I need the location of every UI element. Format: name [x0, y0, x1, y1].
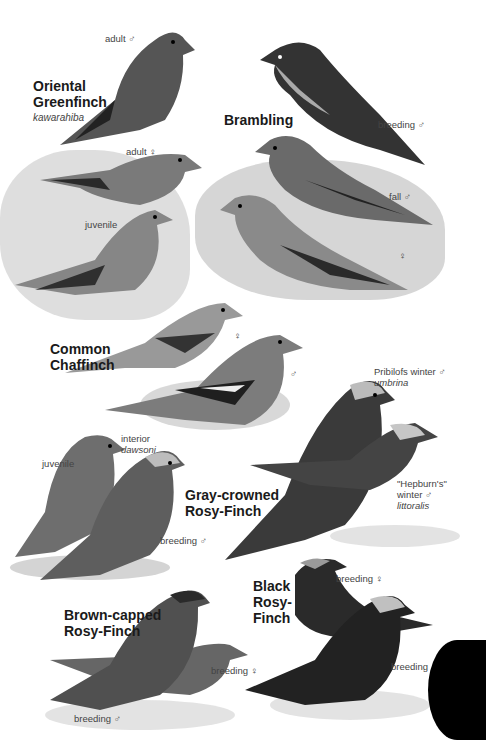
- label-female: ♀: [234, 330, 241, 341]
- male-symbol-icon: ♂: [114, 713, 121, 724]
- species-name-brown-capped-rosy-finch: Brown-capped Rosy-Finch: [64, 607, 161, 639]
- label-male: ♂: [290, 368, 297, 379]
- species-name-line: Rosy-Finch: [64, 623, 140, 639]
- species-name-line: Common: [50, 341, 111, 357]
- species-name-common-chaffinch: Common Chaffinch: [50, 341, 115, 373]
- section-thumb-tab: [428, 640, 486, 740]
- label-breeding-male: breeding ♂: [160, 535, 207, 546]
- species-name-gray-crowned-rosy-finch: Gray-crowned Rosy-Finch: [185, 487, 279, 519]
- species-name-line: Finch: [253, 610, 290, 626]
- subspecies-name: umbrina: [374, 377, 408, 388]
- label-adult-female: adult ♀: [126, 146, 156, 157]
- label-pribilofs-winter-male: Pribilofs winter ♂ umbrina: [374, 366, 446, 388]
- label-breeding-male: breeding ♂: [378, 119, 425, 130]
- label-female: ♀: [399, 250, 406, 261]
- label-juvenile: juvenile: [42, 458, 74, 469]
- male-symbol-icon: ♂: [200, 535, 207, 546]
- male-symbol-icon: ♂: [290, 368, 297, 379]
- male-symbol-icon: ♂: [425, 489, 432, 500]
- female-symbol-icon: ♀: [234, 330, 241, 341]
- species-name-line: Brown-capped: [64, 607, 161, 623]
- label-breeding-male: breeding ♂: [74, 713, 121, 724]
- label-juvenile: juvenile: [85, 219, 117, 230]
- bird-brown-capped-breeding-male: [50, 585, 210, 715]
- female-symbol-icon: ♀: [399, 250, 406, 261]
- local-name: kawarahiba: [33, 110, 107, 126]
- label-breeding-female: breeding ♀: [211, 665, 258, 676]
- female-symbol-icon: ♀: [251, 665, 258, 676]
- female-symbol-icon: ♀: [149, 146, 156, 157]
- species-name-line: Greenfinch: [33, 94, 107, 110]
- species-name-black-rosy-finch: Black Rosy- Finch: [253, 578, 292, 626]
- subspecies-name: littoralis: [397, 500, 429, 511]
- species-name-line: Brambling: [224, 112, 293, 128]
- female-symbol-icon: ♀: [376, 573, 383, 584]
- species-name-line: Rosy-Finch: [185, 503, 261, 519]
- male-symbol-icon: ♂: [438, 366, 445, 377]
- label-hepburns-winter-male: "Hepburn's" winter ♂ littoralis: [397, 478, 447, 511]
- label-interior-dawsoni: interior dawsoni: [121, 433, 156, 455]
- species-name-line: Oriental: [33, 78, 86, 94]
- label-fall-male: fall ♂: [389, 191, 411, 202]
- male-symbol-icon: ♂: [404, 191, 411, 202]
- bird-oriental-greenfinch-adult-female: [40, 150, 205, 210]
- species-name-line: Gray-crowned: [185, 487, 279, 503]
- species-name-line: Rosy-: [253, 594, 292, 610]
- label-adult-male: adult ♂: [105, 33, 135, 44]
- species-name-brambling: Brambling: [224, 112, 293, 128]
- species-name-line: Chaffinch: [50, 357, 115, 373]
- bird-brambling-female: [220, 190, 410, 305]
- label-breeding-female: breeding ♀: [336, 573, 383, 584]
- species-name-oriental-greenfinch: Oriental Greenfinch kawarahiba: [33, 78, 107, 126]
- male-symbol-icon: ♂: [128, 33, 135, 44]
- male-symbol-icon: ♂: [418, 119, 425, 130]
- species-name-line: Black: [253, 578, 290, 594]
- subspecies-name: dawsoni: [121, 444, 156, 455]
